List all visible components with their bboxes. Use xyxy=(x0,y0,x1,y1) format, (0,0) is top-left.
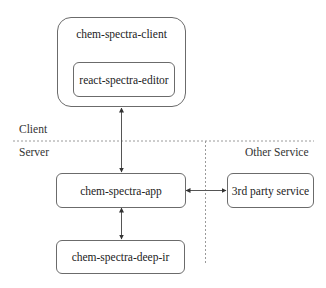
node-3rd-party-service: 3rd party service xyxy=(227,173,314,208)
node-chem-spectra-app: chem-spectra-app xyxy=(56,173,186,208)
zone-label-other-service: Other Service xyxy=(245,146,309,158)
zone-label-client: Client xyxy=(19,123,47,135)
node-label: react-spectra-editor xyxy=(79,74,168,86)
zone-label-server: Server xyxy=(19,146,49,158)
node-label: chem-spectra-client xyxy=(76,28,167,40)
node-label: chem-spectra-deep-ir xyxy=(72,251,170,263)
node-label: chem-spectra-app xyxy=(80,185,162,197)
node-react-spectra-editor: react-spectra-editor xyxy=(73,62,175,97)
node-label: 3rd party service xyxy=(232,185,309,197)
node-chem-spectra-deep-ir: chem-spectra-deep-ir xyxy=(56,240,185,274)
